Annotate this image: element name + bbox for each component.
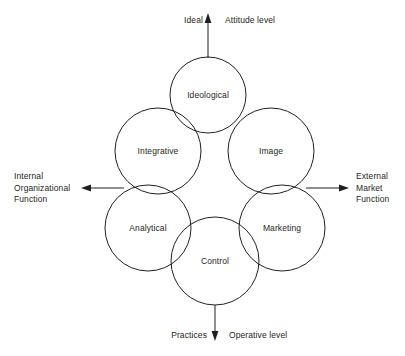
circle-label-integrative: Integrative xyxy=(138,146,179,156)
external-axis-label: External Market Function xyxy=(356,171,389,206)
external-axis-label-line-3: Function xyxy=(356,194,389,206)
internal-axis-label-line-3: Function xyxy=(14,194,70,206)
attitude-axis-left-label: Ideal xyxy=(184,15,203,27)
internal-axis-label-line-1: Internal xyxy=(14,171,70,183)
operative-axis-arrowhead xyxy=(212,331,219,341)
circle-label-analytical: Analytical xyxy=(129,223,166,233)
internal-axis-label-line-2: Organizational xyxy=(14,182,70,194)
circle-label-marketing: Marketing xyxy=(263,223,301,233)
internal-axis-label: Internal Organizational Function xyxy=(14,171,70,206)
operative-axis-right-label: Operative level xyxy=(229,330,287,342)
attitude-axis-right-label: Attitude level xyxy=(225,15,275,27)
external-axis-label-line-2: Market xyxy=(356,182,389,194)
attitude-axis-arrowhead xyxy=(205,13,212,23)
external-axis-label-line-1: External xyxy=(356,171,389,183)
circle-label-control: Control xyxy=(201,256,229,266)
operative-axis-left-label: Practices xyxy=(171,330,207,342)
axes-group xyxy=(81,13,349,341)
circle-label-image: Image xyxy=(259,146,283,156)
diagram-canvas: IdeologicalIntegrativeImageAnalyticalMar… xyxy=(0,0,405,356)
internal-axis-arrowhead xyxy=(81,185,91,192)
external-axis-arrowhead xyxy=(339,185,349,192)
circle-label-ideological: Ideological xyxy=(187,90,229,100)
